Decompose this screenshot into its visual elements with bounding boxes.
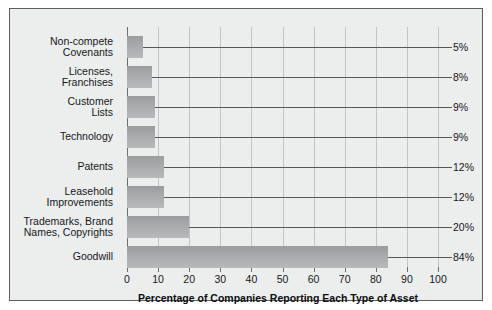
category-label-line: Goodwill [73,251,113,263]
x-tick-label: 10 [152,273,164,285]
x-tick-label: 50 [277,273,289,285]
category-axis-labels: Non-competeCovenantsLicenses,FranchisesC… [10,27,113,267]
value-label: 12% [453,161,474,173]
category-label: Non-competeCovenants [50,36,113,59]
x-axis-tick-labels: 0102030405060708090100 [118,273,448,287]
bar-row [127,216,452,238]
chart-frame: Non-competeCovenantsLicenses,FranchisesC… [9,8,483,301]
bar-row [127,246,452,268]
x-tick-label: 90 [401,273,413,285]
bar-row [127,96,452,118]
category-label: LeaseholdImprovements [46,186,113,209]
value-label: 8% [453,71,468,83]
category-label-line: Technology [60,131,113,143]
leader-line [388,257,452,258]
value-label: 12% [453,191,474,203]
x-tick-label: 0 [124,273,130,285]
x-tick-label: 80 [370,273,382,285]
category-label-line: Lists [67,107,113,119]
bar [127,126,155,148]
bar-row [127,126,452,148]
leader-line [155,107,452,108]
bar-row [127,156,452,178]
leader-line [164,167,452,168]
value-label: 84% [453,251,474,263]
x-tick-label: 60 [308,273,320,285]
x-tick-label: 70 [339,273,351,285]
bar [127,66,152,88]
value-label: 5% [453,41,468,53]
category-label: Licenses,Franchises [62,66,113,89]
category-label: CustomerLists [67,96,113,119]
x-axis-title: Percentage of Companies Reporting Each T… [118,292,438,304]
bar-row [127,186,452,208]
value-labels: 5%8%9%9%12%12%20%84% [453,27,492,267]
bar [127,36,143,58]
leader-line [155,137,452,138]
x-tick-label: 20 [183,273,195,285]
category-label-line: Patents [77,161,113,173]
value-label: 9% [453,101,468,113]
category-label-line: Franchises [62,77,113,89]
bar-row [127,36,452,58]
category-label-line: Covenants [50,47,113,59]
bar [127,216,189,238]
bar [127,156,164,178]
bar-row [127,66,452,88]
bar [127,186,164,208]
category-label-line: Names, Copyrights [24,227,113,239]
x-tick-label: 30 [214,273,226,285]
chart-figure: Non-competeCovenantsLicenses,FranchisesC… [0,0,492,310]
plot-area [118,27,438,267]
bar [127,246,388,268]
category-label: Patents [77,161,113,173]
leader-line [143,47,452,48]
bar [127,96,155,118]
category-label: Technology [60,131,113,143]
leader-line [152,77,452,78]
value-label: 20% [453,221,474,233]
category-label: Goodwill [73,251,113,263]
value-label: 9% [453,131,468,143]
x-tick-label: 100 [429,273,447,285]
leader-line [189,227,452,228]
x-tick-label: 40 [246,273,258,285]
category-label: Trademarks, BrandNames, Copyrights [24,216,113,239]
leader-line [164,197,452,198]
category-label-line: Improvements [46,197,113,209]
